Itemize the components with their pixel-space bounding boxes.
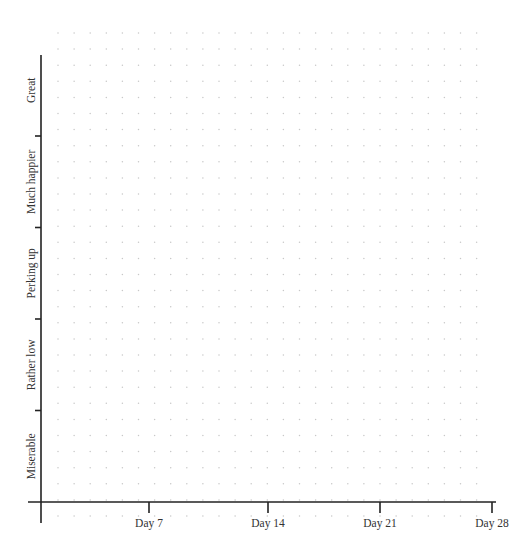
grid-dot (89, 209, 91, 211)
grid-dot (379, 161, 381, 163)
grid-dot (331, 242, 333, 244)
grid-dot (428, 515, 430, 517)
grid-dot (476, 225, 478, 227)
grid-dot (428, 258, 430, 260)
grid-dot (299, 451, 301, 453)
grid-dot (444, 354, 446, 356)
grid-dot (170, 225, 172, 227)
grid-dot (154, 258, 156, 260)
grid-dot (428, 225, 430, 227)
grid-dot (106, 386, 108, 388)
grid-dot (250, 242, 252, 244)
grid-dot (202, 97, 204, 99)
grid-dot (154, 435, 156, 437)
grid-dot (202, 129, 204, 131)
grid-dot (379, 403, 381, 405)
grid-dot (331, 419, 333, 421)
grid-dot (476, 242, 478, 244)
grid-dot (138, 451, 140, 453)
grid-dot (138, 64, 140, 66)
grid-dot (122, 161, 124, 163)
grid-dot (299, 129, 301, 131)
grid-dot (267, 113, 269, 115)
grid-dot (138, 290, 140, 292)
grid-dot (411, 64, 413, 66)
grid-dot (267, 451, 269, 453)
grid-dot (331, 290, 333, 292)
grid-dot (315, 467, 317, 469)
grid-dot (154, 145, 156, 147)
grid-dot (411, 306, 413, 308)
grid-dot (250, 113, 252, 115)
grid-dot (315, 354, 317, 356)
grid-dot (186, 467, 188, 469)
grid-dot (73, 193, 75, 195)
grid-dot (460, 209, 462, 211)
grid-dot (234, 467, 236, 469)
grid-dot (315, 258, 317, 260)
grid-dot (267, 145, 269, 147)
grid-dot (331, 435, 333, 437)
grid-dot (411, 145, 413, 147)
grid-dot (73, 403, 75, 405)
grid-dot (411, 451, 413, 453)
grid-dot (331, 483, 333, 485)
grid-dot (331, 515, 333, 517)
grid-dot (186, 209, 188, 211)
grid-dot (315, 419, 317, 421)
grid-dot (299, 32, 301, 34)
grid-dot (186, 32, 188, 34)
grid-dot (267, 161, 269, 163)
grid-dot (476, 32, 478, 34)
grid-dot (234, 209, 236, 211)
grid-dot (89, 419, 91, 421)
grid-dot (234, 48, 236, 50)
grid-dot (218, 467, 220, 469)
grid-dot (476, 209, 478, 211)
grid-dot (218, 64, 220, 66)
grid-dot (299, 193, 301, 195)
grid-dot (234, 113, 236, 115)
grid-dot (202, 322, 204, 324)
grid-dot (218, 32, 220, 34)
grid-dot (379, 386, 381, 388)
grid-dot (138, 97, 140, 99)
grid-dot (428, 129, 430, 131)
grid-dot (218, 81, 220, 83)
grid-dot (363, 306, 365, 308)
grid-dot (331, 32, 333, 34)
grid-dot (106, 467, 108, 469)
grid-dot (106, 403, 108, 405)
grid-dot (218, 258, 220, 260)
grid-dot (347, 386, 349, 388)
grid-dot (444, 306, 446, 308)
grid-dot (315, 403, 317, 405)
grid-dot (395, 419, 397, 421)
grid-dot (122, 322, 124, 324)
grid-dot (73, 386, 75, 388)
grid-dot (411, 97, 413, 99)
grid-dot (218, 370, 220, 372)
grid-dot (138, 48, 140, 50)
grid-dot (154, 242, 156, 244)
grid-dot (363, 225, 365, 227)
grid-dot (57, 258, 59, 260)
grid-dot (299, 97, 301, 99)
grid-dot (363, 64, 365, 66)
grid-dot (138, 403, 140, 405)
grid-dot (218, 483, 220, 485)
grid-dot (218, 386, 220, 388)
grid-dot (411, 32, 413, 34)
grid-dot (460, 370, 462, 372)
grid-dot (234, 435, 236, 437)
grid-dot (267, 338, 269, 340)
grid-dot (363, 483, 365, 485)
grid-dot (202, 274, 204, 276)
grid-dot (428, 145, 430, 147)
grid-dot (331, 113, 333, 115)
grid-dot (234, 145, 236, 147)
grid-dot (218, 499, 220, 501)
grid-dot (283, 322, 285, 324)
grid-dot (57, 161, 59, 163)
grid-dot (73, 242, 75, 244)
